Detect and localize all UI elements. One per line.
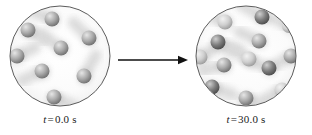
time-value-initial: 0.0 s [55,113,77,125]
vessel-final-svg [190,4,302,110]
time-value-final: 30.0 s [238,113,265,125]
diffusion-figure: t=0.0 s t=30.0 s [0,0,312,135]
time-label-initial: t=0.0 s [4,112,116,126]
time-label-final: t=30.0 s [190,112,302,126]
time-equals-initial: = [47,113,55,125]
vessel-initial-svg [4,4,116,110]
panel-final-state: t=30.0 s [190,0,302,135]
process-arrow [116,50,194,70]
time-equals-final: = [230,113,238,125]
vessel-final [190,4,302,110]
vessel-initial [4,4,116,110]
panel-initial-state: t=0.0 s [4,0,116,135]
